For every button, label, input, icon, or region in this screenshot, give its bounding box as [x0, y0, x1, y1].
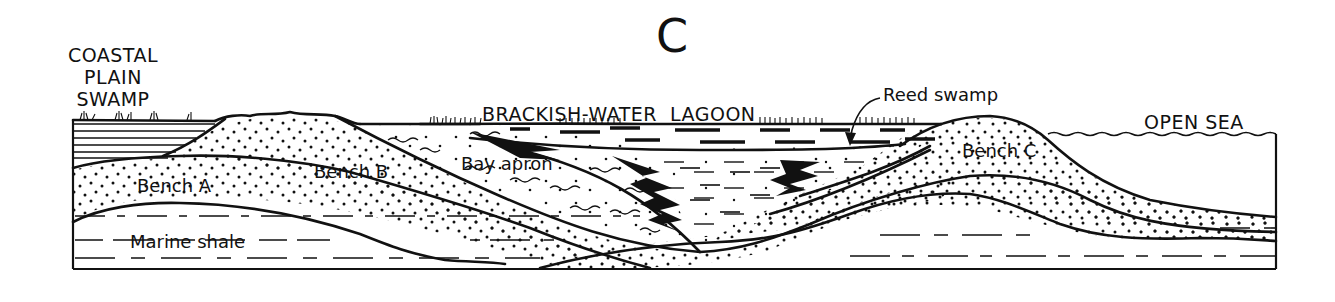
reed-swamp-arrow — [845, 98, 880, 146]
marine-shale-label: Marine shale — [130, 231, 245, 252]
cross-section-diagram: C COASTAL PLAIN SWAMP — [0, 0, 1335, 302]
brackish-water-lagoon-label: BRACKISH-WATER LAGOON — [482, 103, 756, 125]
panel-label: C — [656, 9, 688, 63]
bench-c-label: Bench C — [962, 140, 1036, 161]
open-sea-label: OPEN SEA — [1144, 111, 1244, 133]
bench-b-label: Bench B — [314, 161, 388, 182]
bench-a-label: Bench A — [137, 175, 212, 196]
coastal-plain-swamp-label: COASTAL PLAIN SWAMP — [68, 44, 158, 110]
bay-apron-label: Bay apron — [461, 153, 553, 174]
coastal-plain-swamp-line-1: COASTAL — [68, 44, 158, 66]
reed-swamp-label: Reed swamp — [883, 84, 998, 105]
coastal-plain-swamp-line-3: SWAMP — [76, 88, 149, 110]
coastal-plain-swamp-line-2: PLAIN — [84, 66, 142, 88]
